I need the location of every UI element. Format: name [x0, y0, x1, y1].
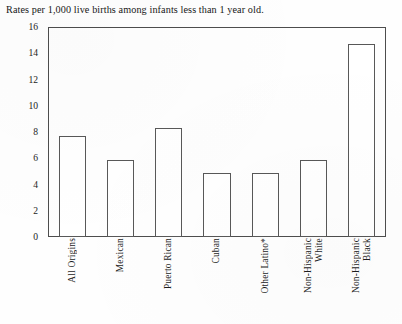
- x-tick-label: Non-HispanicWhite: [289, 238, 337, 324]
- x-tick-label-line: Black: [362, 238, 373, 261]
- x-tick-label-line: Cuban: [211, 238, 222, 263]
- infant-mortality-bar-chart-figure: Rates per 1,000 live births among infant…: [0, 0, 402, 324]
- y-tick-label: 12: [28, 75, 38, 85]
- bar: [252, 173, 279, 237]
- bar: [155, 128, 182, 237]
- x-tick-label-line: White: [314, 238, 325, 262]
- x-tick-label-line: Puerto Rican: [163, 238, 174, 289]
- bar: [107, 160, 134, 237]
- x-axis: All OriginsMexicanPuerto RicanCubanOther…: [48, 238, 386, 324]
- x-tick-label: Non-HispanicBlack: [338, 238, 386, 324]
- x-tick-label: Other Latino*: [241, 238, 289, 324]
- bar: [203, 173, 230, 237]
- bars-layer: [48, 27, 386, 237]
- x-tick-label-line: Non-Hispanic: [351, 238, 362, 293]
- x-tick-label-line: Mexican: [115, 238, 126, 272]
- x-tick-label: Mexican: [96, 238, 144, 324]
- x-tick-label: Cuban: [193, 238, 241, 324]
- y-tick-label: 6: [33, 153, 38, 163]
- bar: [348, 44, 375, 237]
- y-tick-label: 2: [33, 206, 38, 216]
- bar: [300, 160, 327, 237]
- y-tick-label: 14: [28, 48, 38, 58]
- x-tick-label: All Origins: [48, 238, 96, 324]
- bar: [59, 136, 86, 237]
- y-tick-label: 0: [33, 232, 38, 242]
- y-tick-label: 8: [33, 127, 38, 137]
- x-tick-label-line: All Origins: [67, 238, 78, 283]
- chart-title: Rates per 1,000 live births among infant…: [6, 4, 264, 16]
- x-tick-label-line: Other Latino*: [260, 238, 271, 293]
- y-tick-label: 16: [28, 22, 38, 32]
- x-tick-label-line: Non-Hispanic: [303, 238, 314, 293]
- x-tick-label: Puerto Rican: [145, 238, 193, 324]
- y-axis: 0246810121416: [0, 27, 44, 237]
- y-tick-label: 4: [33, 180, 38, 190]
- y-tick-label: 10: [28, 101, 38, 111]
